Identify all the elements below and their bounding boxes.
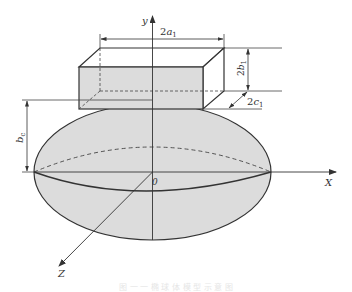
a1-dimension-label: 2a1 [160, 26, 177, 39]
prism-top-face [79, 48, 224, 67]
z-axis-label: Z [57, 268, 66, 279]
y-axis-label: y [141, 15, 148, 26]
diagram-canvas: y X Z 0 2a1 2b1 2c1 bc [0, 0, 352, 292]
prism-front-face [79, 67, 203, 109]
bc-dimension-label: bc [14, 133, 27, 143]
origin-label: 0 [152, 177, 158, 187]
c1-dimension-label: 2c1 [247, 96, 263, 109]
figure-caption: 图 一 一 椭 球 体 模 型 示 意 图 [0, 281, 352, 292]
b1-dimension-label: 2b1 [236, 60, 248, 76]
x-axis-label: X [324, 177, 333, 188]
c1-dimension-arrow [229, 92, 247, 108]
